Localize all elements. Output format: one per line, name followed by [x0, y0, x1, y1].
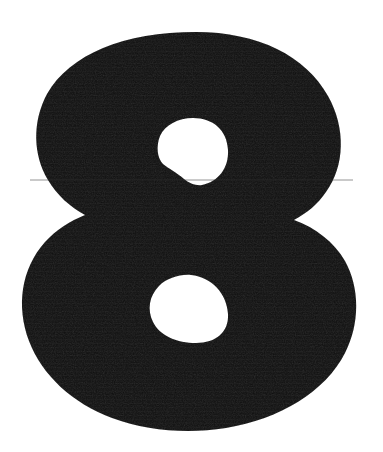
- image-canvas: 8: [0, 0, 383, 452]
- ink-grain-texture: [0, 0, 383, 452]
- numeral-eight-graphic: [0, 0, 383, 452]
